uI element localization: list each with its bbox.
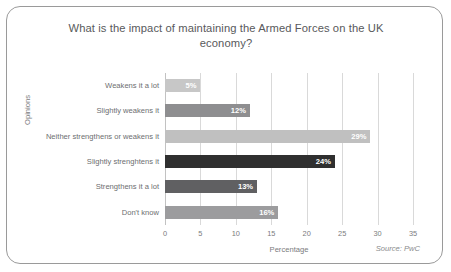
y-axis-title: Opinions bbox=[23, 95, 32, 125]
x-tick-label: 10 bbox=[232, 229, 240, 238]
bar: Strengthens it a lot13% bbox=[165, 180, 257, 193]
plot-area: Weakens it a lot5%Slightly weakens it12%… bbox=[165, 73, 413, 225]
category-label: Strengthens it a lot bbox=[96, 180, 159, 193]
bar-value-label: 13% bbox=[238, 182, 257, 191]
bar: Don't know16% bbox=[165, 206, 278, 219]
category-label: Weakens it a lot bbox=[105, 79, 159, 92]
category-label: Slightly strenghtens it bbox=[87, 155, 159, 168]
chart-card: What is the impact of maintaining the Ar… bbox=[6, 6, 443, 264]
bar-value-label: 5% bbox=[185, 81, 200, 90]
category-label: Neither strengthens or weakens it bbox=[46, 130, 159, 143]
bar-row: Slightly strenghtens it24% bbox=[165, 149, 335, 174]
bar-value-label: 16% bbox=[259, 208, 278, 217]
x-tick-label: 15 bbox=[267, 229, 275, 238]
bar-row: Don't know16% bbox=[165, 200, 278, 225]
source-note: Source: PwC bbox=[376, 244, 420, 253]
gridline-25 bbox=[342, 73, 343, 225]
page-title: What is the impact of maintaining the Ar… bbox=[47, 21, 405, 51]
x-tick-label: 35 bbox=[409, 229, 417, 238]
bar: Slightly weakens it12% bbox=[165, 104, 250, 117]
bar: Slightly strenghtens it24% bbox=[165, 155, 335, 168]
x-tick-label: 30 bbox=[373, 229, 381, 238]
category-label: Slightly weakens it bbox=[97, 104, 159, 117]
bar-row: Slightly weakens it12% bbox=[165, 98, 250, 123]
bar-value-label: 29% bbox=[351, 132, 370, 141]
gridline-30 bbox=[378, 73, 379, 225]
bar: Weakens it a lot5% bbox=[165, 79, 200, 92]
bar-row: Strengthens it a lot13% bbox=[165, 174, 257, 199]
bar-row: Neither strengthens or weakens it29% bbox=[165, 124, 370, 149]
x-tick-label: 5 bbox=[198, 229, 202, 238]
bar-value-label: 24% bbox=[316, 157, 335, 166]
x-tick-label: 25 bbox=[338, 229, 346, 238]
bar-row: Weakens it a lot5% bbox=[165, 73, 200, 98]
x-tick-label: 20 bbox=[303, 229, 311, 238]
x-tick-label: 0 bbox=[163, 229, 167, 238]
bar: Neither strengthens or weakens it29% bbox=[165, 130, 370, 143]
bar-value-label: 12% bbox=[231, 106, 250, 115]
category-label: Don't know bbox=[122, 206, 159, 219]
gridline-35 bbox=[413, 73, 414, 225]
